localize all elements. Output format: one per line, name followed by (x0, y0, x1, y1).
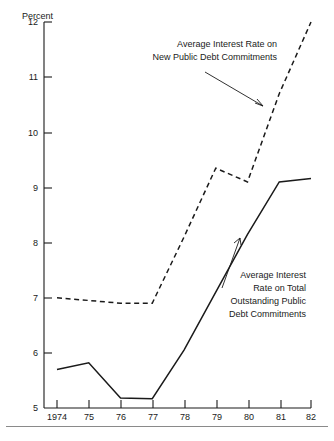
annotation-total-outstanding-line2: Rate on Total (253, 283, 306, 293)
y-tick-label-10: 10 (28, 128, 38, 138)
series-line-new-public-debt (57, 22, 311, 303)
x-axis-tick-labels: 1974 75 76 77 78 79 80 81 82 (47, 412, 316, 422)
chart-container: Percent 12 11 10 9 8 7 6 5 (0, 0, 334, 441)
x-tick-label-81: 81 (276, 412, 286, 422)
annotation-new-public-debt-line1: Average Interest Rate on (177, 39, 277, 49)
annotation-new-public-debt: Average Interest Rate on New Public Debt… (152, 39, 277, 62)
annotation-new-public-debt-line2: New Public Debt Commitments (152, 52, 277, 62)
x-tick-label-79: 79 (212, 412, 222, 422)
x-tick-label-75: 75 (84, 412, 94, 422)
x-axis-ticks (57, 400, 311, 408)
y-tick-label-5: 5 (33, 403, 38, 413)
y-axis-tick-labels: 12 11 10 9 8 7 6 5 (28, 17, 38, 413)
footer-divider (6, 426, 328, 427)
leader-line-total-outstanding (222, 238, 240, 288)
x-tick-label-82: 82 (306, 412, 316, 422)
interest-rate-line-chart: Percent 12 11 10 9 8 7 6 5 (0, 0, 334, 441)
x-tick-label-80: 80 (244, 412, 254, 422)
x-tick-label-78: 78 (180, 412, 190, 422)
y-tick-label-9: 9 (33, 183, 38, 193)
y-tick-label-8: 8 (33, 238, 38, 248)
x-tick-label-77: 77 (148, 412, 158, 422)
x-tick-label-76: 76 (116, 412, 126, 422)
annotation-total-outstanding-line4: Debt Commitments (229, 309, 307, 319)
leader-line-new-public-debt (205, 72, 263, 106)
y-tick-label-7: 7 (33, 293, 38, 303)
y-tick-label-6: 6 (33, 348, 38, 358)
y-axis-ticks (44, 22, 52, 353)
annotation-total-outstanding-line1: Average Interest (240, 270, 306, 280)
annotation-total-outstanding: Average Interest Rate on Total Outstandi… (229, 270, 307, 319)
y-tick-label-11: 11 (29, 72, 38, 82)
annotation-total-outstanding-line3: Outstanding Public (230, 296, 306, 306)
x-tick-label-1974: 1974 (47, 412, 67, 422)
y-tick-label-12: 12 (28, 17, 38, 27)
